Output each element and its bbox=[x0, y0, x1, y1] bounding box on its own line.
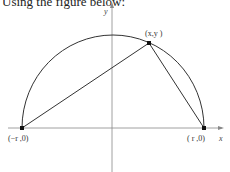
point-top-label: (x,y ) bbox=[145, 29, 163, 38]
semicircle-diagram: y x (x,y ) (−r ,0) ( r ,0) bbox=[0, 0, 230, 172]
segment-left-to-top bbox=[22, 43, 149, 128]
point-left-label: (−r ,0) bbox=[8, 134, 29, 143]
point-right-label: ( r ,0) bbox=[187, 134, 205, 143]
point-right bbox=[202, 126, 206, 130]
point-top bbox=[147, 41, 151, 45]
x-axis-label: x bbox=[218, 134, 223, 143]
y-axis-arrow-icon bbox=[110, 2, 114, 8]
semicircle-arc bbox=[22, 35, 204, 128]
point-left bbox=[20, 126, 24, 130]
segment-top-to-right bbox=[149, 43, 204, 128]
y-axis-label: y bbox=[103, 7, 108, 16]
x-axis-arrow-icon bbox=[218, 126, 224, 130]
